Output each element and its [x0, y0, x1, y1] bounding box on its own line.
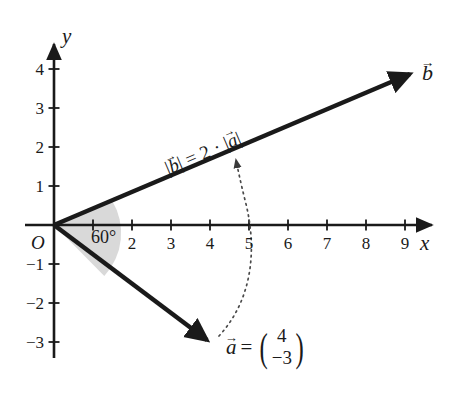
vector-a-equals: = [241, 337, 253, 358]
vector-a-definition: →a = ( 4 −3 ) [226, 325, 306, 370]
y-tick-label-2: 2 [22, 139, 44, 156]
y-tick-label-minus-2: −2 [14, 295, 44, 312]
paren-left: ( [260, 332, 268, 363]
column-vector-entries: 4 −3 [271, 325, 293, 370]
vector-a-name: →a [226, 337, 237, 358]
y-tick-label-4: 4 [22, 61, 44, 78]
x-tick-label-3: 3 [161, 235, 181, 252]
x-tick-label-4: 4 [200, 235, 220, 252]
origin-label: O [31, 233, 45, 252]
vector-b-name: →b [422, 62, 433, 84]
x-tick-label-6: 6 [278, 235, 298, 252]
x-tick-label-8: 8 [356, 235, 376, 252]
relation-equals: = [182, 146, 200, 170]
x-tick-label-9: 9 [395, 235, 415, 252]
vector-arrow-accent-icon: → [421, 56, 435, 70]
vector-diagram-figure: 2 3 4 5 6 7 8 9 4 3 2 1 −1 −2 −3 x y O 6… [0, 0, 455, 395]
x-axis-label: x [420, 233, 429, 254]
angle-label: 60° [91, 228, 116, 246]
x-tick-label-5: 5 [239, 235, 259, 252]
column-vector-matrix: ( 4 −3 ) [257, 325, 306, 370]
y-tick-label-minus-3: −3 [14, 334, 44, 351]
paren-right: ) [295, 332, 303, 363]
vector-arrow-accent-icon: → [225, 331, 238, 344]
vector-b-label: →b [422, 62, 433, 84]
vector-a-component-y: −3 [272, 347, 292, 369]
y-tick-label-1: 1 [22, 178, 44, 195]
y-tick-label-3: 3 [22, 100, 44, 117]
x-tick-label-2: 2 [122, 235, 142, 252]
vector-a-component-x: 4 [277, 325, 287, 347]
y-tick-label-minus-1: −1 [14, 256, 44, 273]
y-axis-label: y [62, 26, 71, 47]
x-tick-label-7: 7 [317, 235, 337, 252]
